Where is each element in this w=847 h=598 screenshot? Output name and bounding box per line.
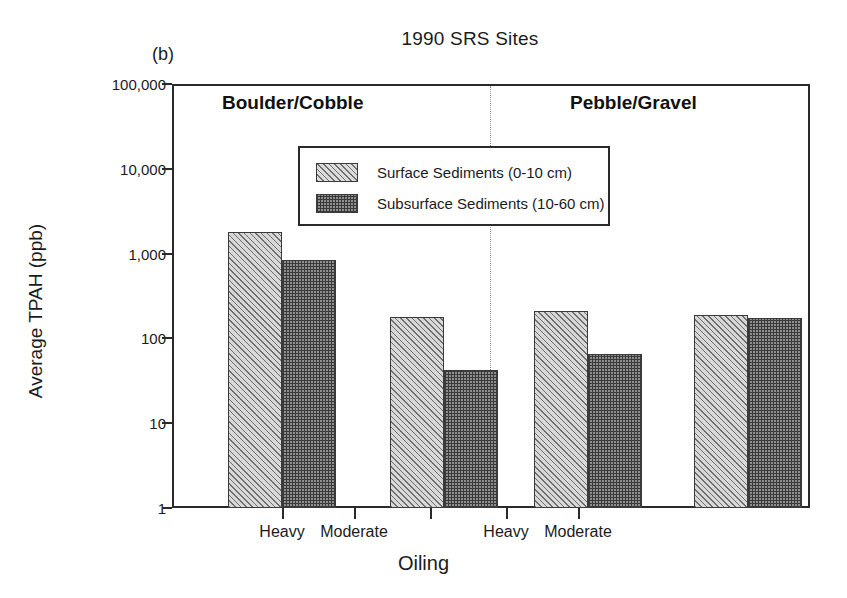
x-tick-mark-center xyxy=(430,508,432,519)
chart-legend: Surface Sediments (0-10 cm) Subsurface S… xyxy=(298,146,610,226)
bar-surface-moderate-boulder-cobble xyxy=(390,317,444,508)
x-tick-mark xyxy=(354,508,356,519)
bar-subsurface-moderate-pebble-gravel xyxy=(748,318,802,508)
x-tick-mark xyxy=(282,508,284,519)
legend-label-subsurface: Subsurface Sediments (10-60 cm) xyxy=(377,195,605,212)
legend-label-surface: Surface Sediments (0-10 cm) xyxy=(377,164,572,181)
bar-subsurface-heavy-boulder-cobble xyxy=(282,260,336,508)
x-tick-label: Heavy xyxy=(483,523,528,541)
x-tick-label: Moderate xyxy=(320,523,388,541)
x-tick-mark xyxy=(578,508,580,519)
bar-surface-heavy-pebble-gravel xyxy=(534,311,588,508)
chart-figure: (b) 1990 SRS Sites 100,00010,0001,000100… xyxy=(0,0,847,598)
legend-swatch-surface-icon xyxy=(316,163,358,182)
x-tick-label: Heavy xyxy=(259,523,304,541)
legend-item-surface: Surface Sediments (0-10 cm) xyxy=(300,157,608,188)
bar-surface-moderate-pebble-gravel xyxy=(694,315,748,508)
x-tick-mark xyxy=(506,508,508,519)
bar-surface-heavy-boulder-cobble xyxy=(228,232,282,508)
x-tick-label: Moderate xyxy=(544,523,612,541)
legend-swatch-subsurface-icon xyxy=(316,194,358,213)
legend-item-subsurface: Subsurface Sediments (10-60 cm) xyxy=(300,188,608,219)
bar-series-container xyxy=(0,0,847,598)
x-axis-title: Oiling xyxy=(0,552,847,575)
bar-subsurface-heavy-pebble-gravel xyxy=(588,354,642,508)
bar-subsurface-moderate-boulder-cobble xyxy=(444,370,498,508)
